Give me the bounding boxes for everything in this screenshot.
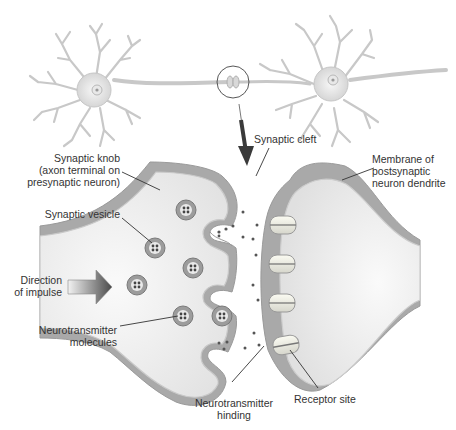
arrow-down-icon: [238, 104, 254, 166]
label-receptor-site: Receptor site: [294, 393, 356, 405]
label-neurotransmitter-molecules: Neurotransmitter molecules: [20, 324, 117, 348]
vesicle: [212, 306, 232, 326]
vesicle: [127, 275, 147, 295]
receptor: [270, 216, 296, 234]
label-membrane-postsynaptic: Membrane of postsynaptic neuron dendrite: [372, 153, 446, 189]
label-synaptic-cleft: Synaptic cleft: [254, 133, 316, 145]
synapse-miniature: [227, 76, 239, 88]
vesicle: [145, 238, 165, 258]
postsynaptic-dendrite: [261, 163, 420, 391]
vesicle: [183, 258, 203, 278]
label-synaptic-knob: Synaptic knob (axon terminal on presynap…: [20, 152, 120, 188]
label-synaptic-vesicle: Synaptic vesicle: [20, 208, 120, 220]
receptor: [269, 294, 295, 312]
receptor: [269, 255, 295, 273]
label-neurotransmitter-binding: Neurotransmitter hinding: [184, 397, 284, 421]
label-direction-of-impulse: Direction of impulse: [6, 274, 62, 298]
vesicle: [176, 200, 196, 220]
